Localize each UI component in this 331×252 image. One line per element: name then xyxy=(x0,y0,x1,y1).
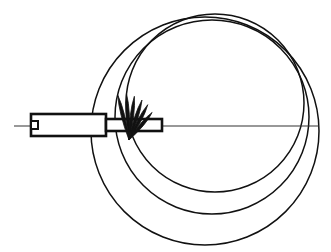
radiating-spikes xyxy=(118,94,152,140)
rod-end-notch xyxy=(31,121,38,129)
line-drawing-svg xyxy=(0,0,331,252)
figure-canvas xyxy=(0,0,331,252)
rod-thick-section xyxy=(31,114,106,136)
